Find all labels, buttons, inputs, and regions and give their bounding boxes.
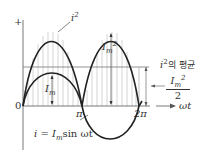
im-squared-label: Im2	[102, 41, 117, 55]
im-label: Im	[45, 84, 56, 97]
half-im-squared-fraction: Im2 2	[166, 74, 190, 101]
i-squared-label: i2	[71, 12, 79, 23]
plus-label: +	[14, 17, 22, 27]
origin-label: 0	[15, 101, 21, 111]
current-equation: i = Imsin ωt	[34, 129, 93, 142]
two-pi-label: 2π	[134, 109, 147, 119]
x-axis-arrowhead	[170, 104, 176, 109]
average-label: i2의 평균	[160, 59, 195, 70]
i-squared-curve	[23, 42, 139, 107]
pi-label: π	[76, 109, 83, 119]
x-axis-label: ωt	[179, 101, 191, 111]
